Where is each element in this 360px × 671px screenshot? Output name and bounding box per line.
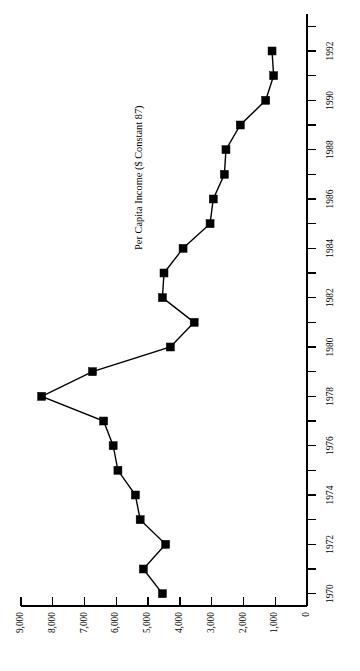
value-tick-label-7000: 7,000 <box>79 612 89 633</box>
data-point-1986: 1986: 2950 <box>209 195 217 203</box>
year-tick-label-1988: 1988 <box>325 140 335 159</box>
year-tick-label-1986: 1986 <box>325 189 335 208</box>
data-point-1981: 1981: 3550 <box>190 318 198 326</box>
year-tick-label-1976: 1976 <box>325 436 335 455</box>
year-tick-label-1974: 1974 <box>325 485 335 504</box>
data-point-1970: 1970: 4550 <box>158 590 166 598</box>
value-tick-label-4000: 4,000 <box>174 612 184 633</box>
chart-container: 9,0008,0007,0006,0005,0004,0003,0002,000… <box>0 0 360 671</box>
value-axis-tick-labels: 9,0008,0007,0006,0005,0004,0003,0002,000… <box>15 612 311 633</box>
data-point-1992: 1992: 1100 <box>268 47 276 55</box>
data-point-1989: 1989: 2100 <box>236 121 244 129</box>
data-point-1987: 1987: 2600 <box>220 170 228 178</box>
year-tick-label-1984: 1984 <box>325 239 335 258</box>
year-axis-tick-labels: 1970197219741976197819801982198419861988… <box>325 41 335 603</box>
data-series-line <box>42 51 274 594</box>
data-point-markers: 1970: 45501971: 51501972: 44501973: 5250… <box>38 47 278 598</box>
value-tick-label-3000: 3,000 <box>206 612 216 633</box>
data-point-1974: 1974: 5400 <box>131 491 139 499</box>
data-point-1988: 1988: 2550 <box>222 146 230 154</box>
data-point-1983: 1983: 4500 <box>160 269 168 277</box>
data-point-1976: 1976: 6100 <box>109 442 117 450</box>
year-tick-label-1972: 1972 <box>325 535 335 554</box>
chart-title: Per Capita Income ($ Constant 87) <box>133 105 145 250</box>
value-tick-label-2000: 2,000 <box>238 612 248 633</box>
value-tick-label-5000: 5,000 <box>142 612 152 633</box>
data-point-1990: 1990: 1300 <box>262 96 270 104</box>
year-axis-ticks <box>307 26 316 593</box>
data-point-1971: 1971: 5150 <box>139 565 147 573</box>
year-tick-label-1982: 1982 <box>325 288 335 307</box>
data-point-1979: 1979: 6750 <box>89 368 97 376</box>
year-tick-label-1970: 1970 <box>325 584 335 603</box>
data-point-1973: 1973: 5250 <box>136 516 144 524</box>
data-point-1980: 1980: 4300 <box>166 343 174 351</box>
data-point-1972: 1972: 4450 <box>162 540 170 548</box>
series-path <box>42 51 274 594</box>
value-tick-label-1000: 1,000 <box>269 612 279 633</box>
year-tick-label-1990: 1990 <box>325 91 335 110</box>
year-tick-label-1992: 1992 <box>325 41 335 60</box>
value-tick-label-9000: 9,000 <box>15 612 25 633</box>
per-capita-income-line-chart: 9,0008,0007,0006,0005,0004,0003,0002,000… <box>0 0 360 671</box>
data-point-1975: 1975: 5950 <box>114 466 122 474</box>
data-point-1991: 1991: 1050 <box>270 72 278 80</box>
value-tick-label-8000: 8,000 <box>47 612 57 633</box>
data-point-1984: 1984: 3900 <box>179 244 187 252</box>
value-tick-label-6000: 6,000 <box>110 612 120 633</box>
chart-title-label: Per Capita Income ($ Constant 87) <box>133 105 145 250</box>
data-point-1985: 1985: 3050 <box>206 220 214 228</box>
value-tick-label-0: 0 <box>301 612 311 617</box>
data-point-1978: 1978: 8350 <box>38 392 46 400</box>
data-point-1982: 1982: 4550 <box>158 294 166 302</box>
value-axis-ticks <box>21 597 307 606</box>
data-point-1977: 1977: 6400 <box>100 417 108 425</box>
year-tick-label-1980: 1980 <box>325 337 335 356</box>
year-tick-label-1978: 1978 <box>325 387 335 406</box>
